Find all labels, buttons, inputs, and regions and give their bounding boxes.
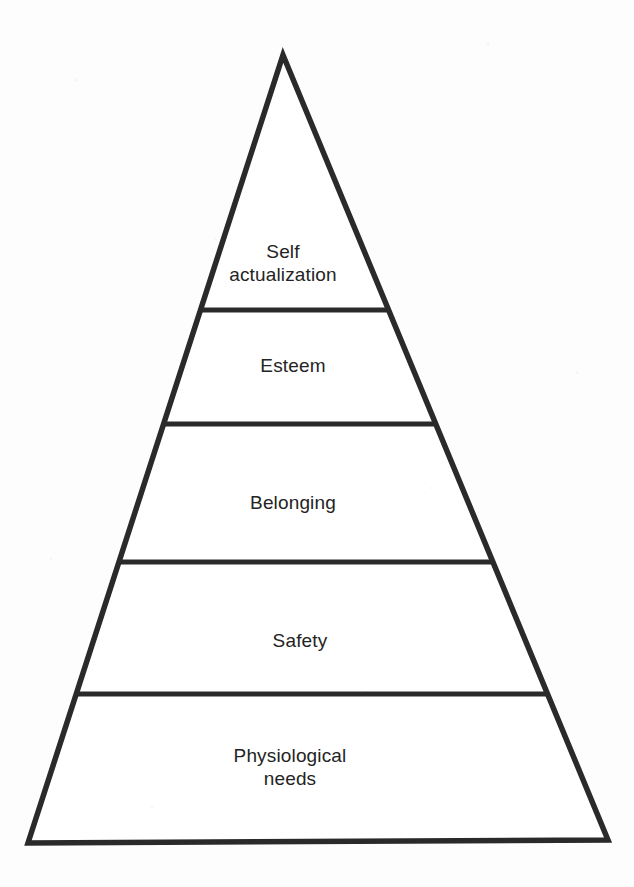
pyramid-diagram: Self actualization Esteem Belonging Safe… (0, 0, 634, 887)
tier-label-belonging: Belonging (193, 491, 393, 514)
tier-label-physiological-needs: Physiological needs (190, 744, 390, 790)
tier-label-self-actualization: Self actualization (183, 240, 383, 286)
tier-label-esteem: Esteem (193, 354, 393, 377)
tier-label-safety: Safety (200, 629, 400, 652)
pyramid-outline (28, 55, 608, 843)
